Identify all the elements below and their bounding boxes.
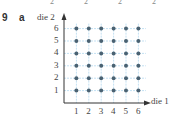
outcome-point <box>87 51 91 55</box>
x-tick-label: 5 <box>124 106 129 116</box>
outcome-point <box>99 39 103 43</box>
outcome-point <box>99 89 103 93</box>
outcome-point <box>136 64 140 68</box>
outcome-point <box>87 39 91 43</box>
outcome-point <box>74 89 78 93</box>
outcome-point <box>124 27 128 31</box>
x-axis-label: die 1 <box>151 96 169 106</box>
outcome-point <box>74 64 78 68</box>
outcome-point <box>124 51 128 55</box>
outcome-point <box>112 39 116 43</box>
outcome-point <box>99 64 103 68</box>
x-tick-label: 2 <box>86 106 91 116</box>
outcome-point <box>136 27 140 31</box>
outcome-point <box>87 76 91 80</box>
outcome-point <box>74 39 78 43</box>
outcome-point <box>136 51 140 55</box>
outcome-point <box>99 51 103 55</box>
y-tick-label: 2 <box>54 72 59 82</box>
outcome-point <box>124 39 128 43</box>
x-axis-arrow-icon <box>144 101 151 106</box>
outcome-point <box>112 51 116 55</box>
outcome-point <box>112 89 116 93</box>
y-axis-label: die 2 <box>37 12 55 22</box>
y-axis-arrow-icon <box>62 13 67 20</box>
x-tick-label: 1 <box>74 106 79 116</box>
x-tick-label: 3 <box>99 106 104 116</box>
outcome-point <box>124 64 128 68</box>
outcome-point <box>112 64 116 68</box>
x-tick-label: 4 <box>111 106 116 116</box>
outcome-point <box>136 39 140 43</box>
outcome-point <box>99 27 103 31</box>
y-tick-label: 3 <box>54 60 59 70</box>
y-tick-label: 6 <box>54 23 59 33</box>
x-tick-label: 6 <box>136 106 141 116</box>
outcome-point <box>136 76 140 80</box>
y-tick-label: 4 <box>54 47 59 57</box>
outcome-point <box>112 27 116 31</box>
outcome-point <box>87 89 91 93</box>
outcome-point <box>124 76 128 80</box>
outcome-point <box>74 51 78 55</box>
y-tick-label: 5 <box>54 35 59 45</box>
y-tick-label: 1 <box>54 85 59 95</box>
outcome-point <box>112 76 116 80</box>
outcome-point <box>74 76 78 80</box>
outcome-point <box>87 64 91 68</box>
outcome-point <box>136 89 140 93</box>
outcome-point <box>124 89 128 93</box>
outcome-point <box>87 27 91 31</box>
outcome-point <box>74 27 78 31</box>
outcome-point <box>99 76 103 80</box>
